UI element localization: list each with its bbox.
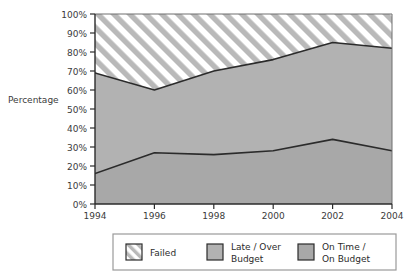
y-tick-label: 0% bbox=[73, 200, 88, 210]
legend-label-late-over-budget-line2: Budget bbox=[231, 254, 264, 264]
x-tick-label: 1996 bbox=[143, 211, 166, 221]
y-tick-label: 90% bbox=[67, 29, 87, 39]
legend-label-late-over-budget-line1: Late / Over bbox=[231, 242, 281, 252]
x-tick-label: 1994 bbox=[84, 211, 107, 221]
stacked-area-chart: 100% 90% 80% 70% 60% 50% 40% 30% 20% 10%… bbox=[0, 0, 412, 274]
legend-label-on-time-on-budget-line2: On Budget bbox=[322, 254, 370, 264]
y-axis-title: Percentage bbox=[8, 95, 59, 105]
x-axis-tick-labels: 1994 1996 1998 2000 2002 2004 bbox=[84, 211, 404, 221]
y-tick-label: 100% bbox=[61, 10, 87, 20]
y-axis-ticks bbox=[90, 14, 95, 204]
y-tick-label: 50% bbox=[67, 105, 87, 115]
legend-label-failed: Failed bbox=[150, 248, 176, 258]
y-tick-label: 60% bbox=[67, 86, 87, 96]
x-tick-label: 2000 bbox=[262, 211, 285, 221]
y-tick-label: 20% bbox=[67, 162, 87, 172]
x-tick-label: 2004 bbox=[381, 211, 404, 221]
y-axis-tick-labels: 100% 90% 80% 70% 60% 50% 40% 30% 20% 10%… bbox=[61, 10, 87, 210]
y-tick-label: 80% bbox=[67, 48, 87, 58]
legend-label-on-time-on-budget-line1: On Time / bbox=[322, 242, 367, 252]
legend-swatch-on-time-on-budget bbox=[298, 244, 314, 260]
legend-swatch-failed bbox=[126, 244, 142, 260]
legend-swatch-late-over-budget bbox=[207, 244, 223, 260]
y-tick-label: 70% bbox=[67, 67, 87, 77]
x-tick-label: 1998 bbox=[202, 211, 225, 221]
chart-container: 100% 90% 80% 70% 60% 50% 40% 30% 20% 10%… bbox=[0, 0, 412, 274]
y-tick-label: 40% bbox=[67, 124, 87, 134]
x-tick-label: 2002 bbox=[321, 211, 344, 221]
y-tick-label: 30% bbox=[67, 143, 87, 153]
x-axis-ticks bbox=[95, 204, 392, 209]
y-tick-label: 10% bbox=[67, 181, 87, 191]
chart-legend: Failed Late / Over Budget On Time / On B… bbox=[113, 234, 396, 270]
